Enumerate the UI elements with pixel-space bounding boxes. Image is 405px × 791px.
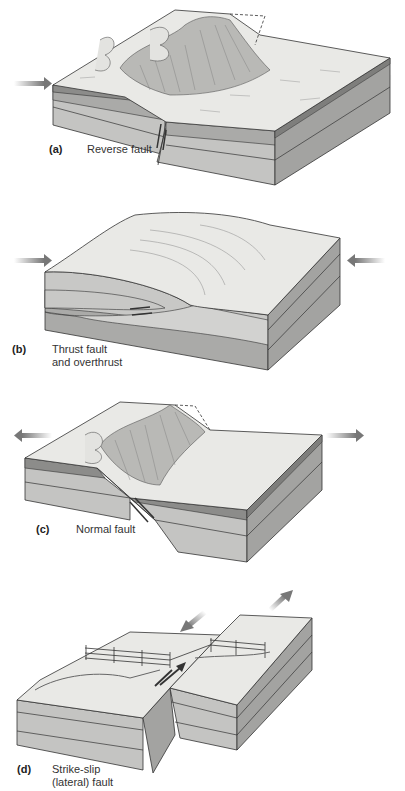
panel-caption: Reverse fault	[87, 143, 152, 156]
panel-letter: (d)	[17, 763, 31, 775]
panel-strike-slip-fault: (d) Strike-slip (lateral) fault	[0, 590, 405, 791]
panel-normal-fault: (c) Normal fault	[0, 390, 405, 590]
panel-letter: (b)	[12, 343, 26, 355]
compression-arrow-right-icon	[347, 254, 385, 267]
strike-slip-fault-block-diagram	[0, 590, 405, 791]
panel-caption: Normal fault	[76, 523, 135, 536]
panel-letter: (c)	[36, 523, 49, 535]
compression-arrow-left-icon	[14, 254, 52, 267]
shear-arrow-right-icon	[270, 590, 293, 610]
panel-caption: Strike-slip (lateral) fault	[52, 763, 113, 789]
normal-fault-block-diagram	[0, 390, 405, 590]
reverse-fault-block-diagram	[0, 0, 405, 190]
shear-arrow-left-icon	[180, 612, 205, 632]
panel-thrust-fault: (b) Thrust fault and overthrust	[0, 190, 405, 390]
compression-arrow-left-icon	[14, 77, 52, 90]
panel-caption: Thrust fault and overthrust	[52, 343, 122, 369]
panel-letter: (a)	[49, 143, 62, 155]
panel-reverse-fault: (a) Reverse fault	[0, 0, 405, 190]
tension-arrow-right-icon	[326, 429, 364, 442]
tension-arrow-left-icon	[14, 429, 52, 442]
